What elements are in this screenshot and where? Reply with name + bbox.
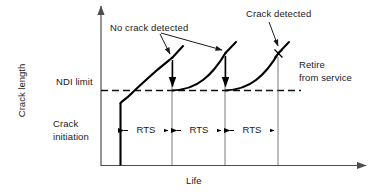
diagram-canvas: [0, 0, 382, 192]
crack-initiation-label: Crack initiation: [53, 118, 89, 143]
crack-initiation-label-line2: initiation: [53, 131, 89, 144]
rts-label-1: RTS: [129, 124, 163, 135]
rts-label-2: RTS: [182, 124, 216, 135]
no-crack-leader-2: [161, 33, 222, 50]
retire-label-line1: Retire: [299, 59, 352, 72]
no-crack-detected-label: No crack detected: [110, 22, 188, 34]
crack-detected-leader: [269, 22, 278, 46]
y-axis-label: Crack length: [16, 31, 27, 151]
growth-curve-2-stub: [226, 42, 237, 53]
crack-initiation-label-line1: Crack: [53, 118, 89, 131]
retirement-x-marker: [275, 50, 283, 58]
retire-from-service-label: Retire from service: [299, 59, 352, 84]
ndi-limit-label: NDI limit: [56, 76, 93, 88]
x-axis-label: Life: [186, 175, 202, 187]
retire-label-line2: from service: [299, 72, 352, 85]
growth-curve-1-stub: [173, 46, 184, 58]
crack-detected-label: Crack detected: [246, 8, 311, 20]
growth-curve-1: [121, 58, 173, 104]
rts-label-3: RTS: [235, 124, 269, 135]
growth-curve-2: [173, 53, 226, 91]
no-crack-leader-1: [160, 34, 170, 54]
crack-growth-inspection-diagram: Crack length Life NDI limit Crack initia…: [0, 0, 382, 192]
growth-curve-3: [226, 53, 279, 91]
